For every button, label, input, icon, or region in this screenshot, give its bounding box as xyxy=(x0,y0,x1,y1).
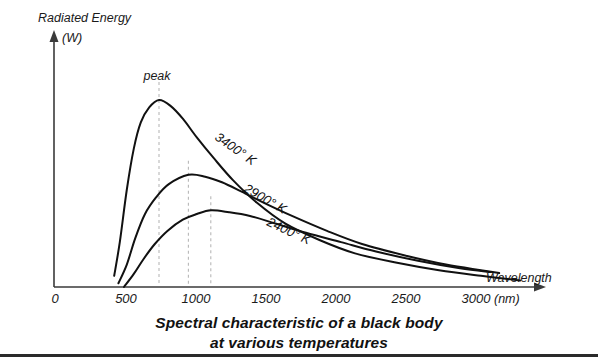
peak-dashed-lines xyxy=(159,82,211,286)
x-tick-label: 2000 xyxy=(321,291,352,306)
x-axis-unit: (nm) xyxy=(494,292,520,306)
curve-3400k xyxy=(114,100,520,280)
x-tick-labels: 0 500 1000 1500 2000 2500 3000 xyxy=(51,291,491,306)
x-tick-label: 3000 xyxy=(462,291,492,306)
x-tick-label: 500 xyxy=(115,291,137,306)
curves-group xyxy=(114,100,520,287)
x-tick-label: 1500 xyxy=(252,291,282,306)
figure-caption-line-1: Spectral characteristic of a black body xyxy=(0,314,598,332)
figure-caption-line-2: at various temperatures xyxy=(0,334,598,352)
series-label-2400k: 2400° K xyxy=(264,214,315,248)
x-tick-label: 2500 xyxy=(391,291,422,306)
y-axis-arrow-icon xyxy=(50,30,59,42)
series-label-2900k: 2900° K xyxy=(241,180,291,217)
black-body-spectral-chart: Radiated Energy (W) Wavelength (nm) 0 50… xyxy=(0,0,598,359)
x-tick-label: 0 xyxy=(51,291,59,306)
y-axis-title: Radiated Energy xyxy=(38,11,132,25)
y-axis-unit: (W) xyxy=(62,31,82,45)
series-label-3400k: 3400° K xyxy=(212,129,260,169)
bottom-rule-divider xyxy=(0,354,598,357)
x-tick-label: 1000 xyxy=(182,291,212,306)
series-labels: 3400° K 2900° K 2400° K xyxy=(212,129,314,248)
chart-svg: Radiated Energy (W) Wavelength (nm) 0 50… xyxy=(0,0,598,312)
curve-2900k xyxy=(118,174,499,283)
peak-annotation-label: peak xyxy=(142,69,171,83)
axes-group xyxy=(50,30,547,292)
